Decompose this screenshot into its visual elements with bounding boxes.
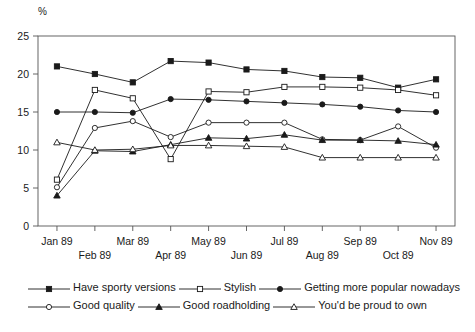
data-point-marker (46, 304, 51, 309)
data-point-marker (168, 134, 173, 139)
data-point-marker (244, 99, 249, 104)
data-point-marker (320, 84, 325, 89)
data-point-marker (92, 109, 97, 114)
data-point-marker (282, 120, 287, 125)
legend-label: Getting more popular nowadays (304, 281, 460, 293)
y-axis-tick-label: 0 (23, 220, 29, 232)
data-point-marker (54, 177, 59, 182)
legend-item-youd-be-proud-to-own[interactable]: You'd be proud to own (273, 299, 430, 311)
data-point-marker (54, 109, 59, 114)
x-axis-tick-label: Mar 89 (116, 235, 149, 247)
series-line (57, 61, 436, 88)
data-point-marker (281, 132, 288, 138)
y-axis-tick-label: 20 (17, 68, 29, 80)
series-line (57, 121, 436, 187)
data-point-marker (433, 109, 438, 114)
legend-marker-open-triangle (273, 299, 315, 311)
data-point-marker (396, 108, 401, 113)
y-axis-tick-label: 15 (17, 106, 29, 118)
x-axis-tick-label: Jul 89 (270, 235, 298, 247)
data-point-marker (46, 286, 51, 291)
legend-item-have-sporty-versions[interactable]: Have sporty versions (28, 281, 179, 293)
data-point-marker (54, 64, 59, 69)
legend-row-1: Have sporty versions Stylish Getting mor… (28, 278, 468, 296)
series-have-sporty-versions (54, 58, 438, 90)
data-point-marker (282, 100, 287, 105)
data-point-marker (320, 102, 325, 107)
legend-item-getting-more-popular-nowadays[interactable]: Getting more popular nowadays (259, 281, 463, 293)
legend-label: Stylish (224, 281, 256, 293)
legend-item-good-roadholding[interactable]: Good roadholding (138, 299, 273, 311)
data-point-marker (168, 96, 173, 101)
x-axis-tick-label: Oct 89 (383, 249, 414, 261)
legend-marker-filled-circle (259, 281, 301, 293)
data-point-marker (92, 87, 97, 92)
data-point-marker (358, 85, 363, 90)
data-point-marker (278, 286, 283, 291)
legend-marker-open-square (179, 281, 221, 293)
data-point-marker (92, 71, 97, 76)
data-point-marker (130, 119, 135, 124)
line-chart: % 0510152025Jan 89Feb 89Mar 89Apr 89May … (0, 0, 475, 332)
data-point-marker (433, 77, 438, 82)
legend-item-good-quality[interactable]: Good quality (28, 299, 138, 311)
data-point-marker (244, 120, 249, 125)
data-point-marker (282, 84, 287, 89)
data-point-marker (206, 60, 211, 65)
x-axis-tick-label: Jan 89 (41, 235, 73, 247)
series-good-quality (54, 119, 438, 190)
chart-legend: Have sporty versions Stylish Getting mor… (0, 278, 475, 326)
legend-marker-filled-triangle (138, 299, 180, 311)
y-axis-tick-label: 5 (23, 182, 29, 194)
y-axis-tick-label: 25 (17, 30, 29, 42)
legend-label: Good quality (73, 299, 135, 311)
x-axis-tick-label: Nov 89 (419, 235, 452, 247)
data-point-marker (168, 58, 173, 63)
data-point-marker (130, 96, 135, 101)
data-point-marker (130, 110, 135, 115)
y-axis-tick-label: 10 (17, 144, 29, 156)
x-axis-tick-label: Sep 89 (344, 235, 377, 247)
x-axis-tick-label: Feb 89 (79, 249, 112, 261)
legend-marker-filled-square (28, 281, 70, 293)
series-you-d-be-proud-to-own (54, 139, 440, 160)
data-point-marker (320, 74, 325, 79)
data-point-marker (244, 90, 249, 95)
data-point-marker (206, 120, 211, 125)
legend-item-stylish[interactable]: Stylish (179, 281, 259, 293)
data-point-marker (358, 75, 363, 80)
data-point-marker (206, 89, 211, 94)
legend-marker-open-circle (28, 299, 70, 311)
data-point-marker (244, 67, 249, 72)
x-axis-tick-label: May 89 (191, 235, 226, 247)
data-point-marker (54, 139, 61, 145)
x-axis-tick-label: Jun 89 (231, 249, 263, 261)
data-point-marker (197, 286, 202, 291)
data-point-marker (433, 93, 438, 98)
data-point-marker (130, 80, 135, 85)
data-point-marker (168, 157, 173, 162)
data-point-marker (206, 97, 211, 102)
legend-row-2: Good quality Good roadholding You'd be p… (28, 296, 468, 314)
x-axis-tick-label: Apr 89 (155, 249, 186, 261)
data-point-marker (396, 124, 401, 129)
legend-label: Have sporty versions (73, 281, 176, 293)
data-point-marker (358, 104, 363, 109)
legend-label: Good roadholding (183, 299, 270, 311)
series-good-roadholding (54, 132, 440, 198)
data-point-marker (54, 185, 59, 190)
legend-label: You'd be proud to own (318, 299, 427, 311)
data-point-marker (92, 125, 97, 130)
plot-area: 0510152025Jan 89Feb 89Mar 89Apr 89May 89… (0, 0, 475, 280)
data-point-marker (282, 68, 287, 73)
x-axis-tick-label: Aug 89 (306, 249, 339, 261)
data-point-marker (205, 135, 212, 141)
series-getting-more-popular-nowadays (54, 96, 438, 115)
data-point-marker (396, 87, 401, 92)
